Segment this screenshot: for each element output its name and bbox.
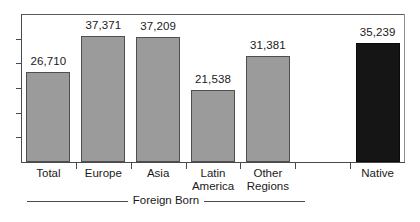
value-label-latin-america: 21,538 (173, 73, 253, 85)
category-label-line: Regions (223, 180, 313, 193)
value-label-other-regions: 31,381 (228, 39, 308, 51)
value-label-native: 35,239 (338, 26, 418, 38)
value-label-asia: 37,209 (118, 20, 198, 32)
category-label-native: Native (333, 167, 420, 180)
bar-asia (136, 37, 180, 162)
bar-native (356, 43, 400, 162)
category-label-line: Native (333, 167, 420, 180)
plot-frame-top-border (21, 14, 405, 15)
y-axis-tick (16, 39, 22, 40)
bar-other-regions (246, 56, 290, 162)
x-axis-line (21, 162, 405, 163)
bar-total (26, 72, 70, 162)
y-axis-tick (16, 88, 22, 89)
value-label-total: 26,710 (8, 55, 88, 67)
y-axis-tick (16, 137, 22, 138)
category-label-other-regions: OtherRegions (223, 167, 313, 193)
category-label-line: Other (223, 167, 313, 180)
bar-latin-america (191, 90, 235, 162)
foreign-born-bracket-label: Foreign Born (106, 194, 226, 206)
y-axis-tick (16, 113, 22, 114)
bar-chart: 26,71037,37137,20921,53831,38135,239 Tot… (0, 0, 420, 222)
